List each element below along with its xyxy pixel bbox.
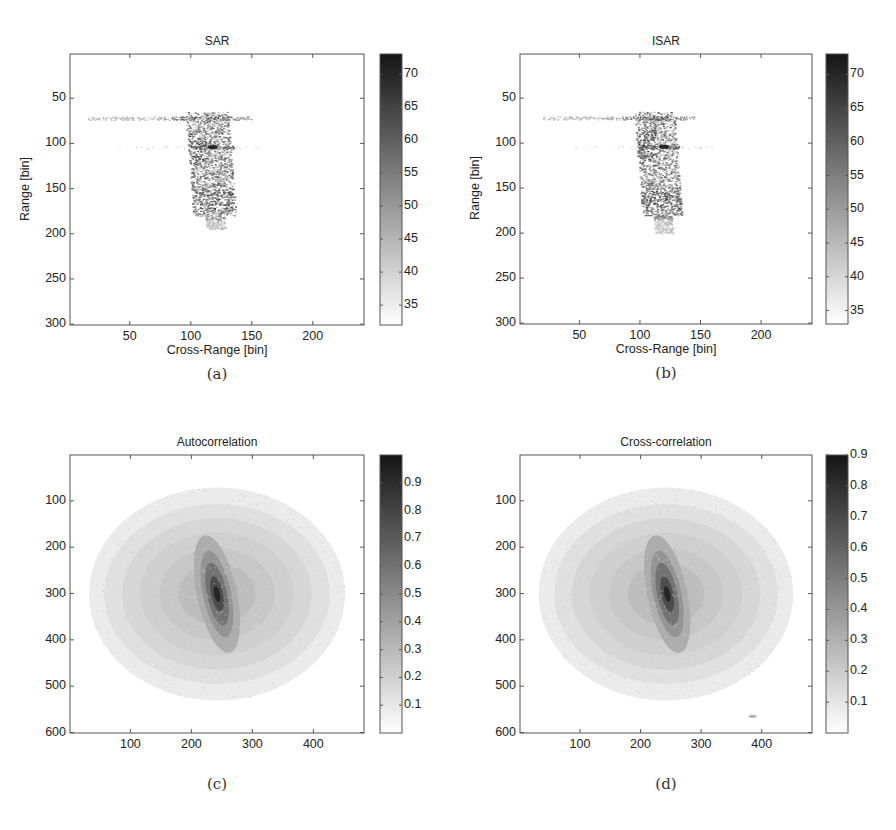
x-tick-label: 300: [681, 737, 721, 751]
heatmap-image: [520, 455, 812, 733]
y-tick-label: 200: [476, 539, 516, 553]
plot-title: Cross-correlation: [520, 435, 812, 449]
colorbar-tick-label: 0.9: [850, 447, 867, 461]
colorbar-tick-label: 0.5: [850, 571, 867, 585]
colorbar-tick-label: 0.3: [850, 632, 867, 646]
y-tick-label: 600: [476, 725, 516, 739]
x-tick-label: 200: [621, 737, 661, 751]
colorbar-tick-label: 0.1: [850, 694, 867, 708]
colorbar-tick-label: 0.2: [850, 663, 867, 677]
y-tick-label: 300: [476, 586, 516, 600]
colorbar-tick-label: 0.7: [850, 509, 867, 523]
y-tick-label: 500: [476, 678, 516, 692]
colorbar-tick-label: 0.8: [850, 478, 867, 492]
colorbar-tick-label: 0.4: [850, 601, 867, 615]
y-tick-label: 400: [476, 632, 516, 646]
x-tick-label: 400: [742, 737, 782, 751]
subfigure-caption: (d): [520, 775, 812, 793]
colorbar-tick-label: 0.6: [850, 540, 867, 554]
x-tick-label: 100: [560, 737, 600, 751]
artifact-spot: [749, 715, 757, 718]
colorbar: [826, 455, 848, 733]
plot-svg-d: [0, 0, 896, 830]
y-tick-label: 100: [476, 493, 516, 507]
